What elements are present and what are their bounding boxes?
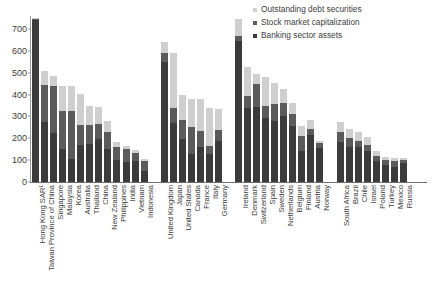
bar (179, 95, 186, 182)
bar (373, 151, 380, 182)
bar-segment-bank (188, 154, 195, 182)
bar-segment-bank (364, 151, 371, 182)
bar-segment-debt (68, 86, 75, 111)
bar-segment-stock (77, 125, 84, 145)
bar-segment-bank (179, 139, 186, 182)
bar-segment-bank (141, 171, 148, 182)
bar-segment-bank (132, 161, 139, 182)
x-axis-label: India (129, 185, 137, 201)
bar (316, 141, 323, 182)
bar-segment-bank (68, 159, 75, 182)
x-axis-label: United Kingdom (167, 185, 175, 239)
bar (206, 108, 213, 182)
bar-segment-debt (41, 71, 48, 85)
bar (123, 146, 130, 182)
bar (346, 129, 353, 183)
x-axis-line (30, 182, 427, 183)
x-axis-label: Philippines (120, 185, 128, 222)
bar (32, 18, 39, 182)
bar-segment-bank (161, 62, 168, 182)
bar-segment-stock (244, 96, 251, 108)
bar-segment-debt (161, 42, 168, 53)
bar-segment-bank (77, 145, 84, 182)
bar (337, 122, 344, 182)
y-tick-mark (28, 160, 31, 161)
bar-segment-debt (104, 121, 111, 132)
bar-segment-debt (298, 126, 305, 136)
bar-segment-stock (280, 103, 287, 116)
x-axis-label: Finland (305, 185, 313, 210)
x-axis-label: Australia (84, 185, 92, 215)
bar-segment-stock (289, 114, 296, 126)
bar-segment-stock (68, 111, 75, 159)
bar-segment-stock (41, 85, 48, 122)
y-tick-mark (28, 116, 31, 117)
x-axis-label: New Zealand (111, 185, 119, 230)
bar-segment-debt (337, 122, 344, 132)
x-axis-label: Belgium (296, 185, 304, 212)
bar (50, 76, 57, 182)
x-axis-label: Korea (75, 185, 83, 205)
x-axis-label: Japan (176, 185, 184, 206)
bar-segment-stock (188, 127, 195, 153)
bar-segment-stock (132, 153, 139, 162)
bar-segment-bank (298, 151, 305, 182)
x-axis-label: Ireland (242, 185, 250, 208)
bar-segment-stock (337, 132, 344, 142)
x-axis-label: Singapore (57, 185, 65, 220)
bar-segment-stock (298, 136, 305, 151)
bar (307, 120, 314, 182)
bar-segment-bank (373, 161, 380, 182)
bar (400, 158, 407, 182)
bar (113, 142, 120, 182)
bar (104, 121, 111, 182)
bar-segment-bank (59, 149, 66, 182)
bar-segment-stock (262, 106, 269, 118)
bar (161, 42, 168, 182)
bar-segment-stock (86, 125, 93, 144)
bar (289, 103, 296, 182)
bar-segment-stock (346, 138, 353, 147)
bar-segment-bank (197, 147, 204, 182)
bar (77, 94, 84, 182)
bar-segment-debt (271, 83, 278, 105)
bar (59, 86, 66, 182)
bar-segment-debt (95, 107, 102, 124)
x-axis-label: Taiwan Province of China (48, 185, 56, 271)
bar-segment-debt (206, 108, 213, 146)
bar-segment-debt (235, 19, 242, 35)
bar-segment-stock (95, 124, 102, 139)
x-axis-label: Austria (314, 185, 322, 209)
bar-segment-bank (289, 126, 296, 182)
bar-segment-stock (206, 146, 213, 154)
bar-segment-bank (41, 122, 48, 182)
x-axis-label: Brazil (352, 185, 360, 204)
bar-segment-stock (104, 132, 111, 149)
bar-segment-stock (253, 84, 260, 107)
bar-segment-debt (215, 109, 222, 130)
bar-segment-debt (244, 67, 251, 95)
bar-segment-debt (50, 76, 57, 86)
x-axis-label: Germany (221, 185, 229, 216)
y-tick-mark (28, 138, 31, 139)
bar-segment-debt (280, 89, 287, 103)
bar (364, 137, 371, 182)
bar-segment-debt (307, 120, 314, 129)
bar-segment-stock (197, 131, 204, 147)
bar-segment-bank (50, 133, 57, 182)
bar (68, 86, 75, 182)
x-axis-label: Vietnam (138, 185, 146, 213)
plot-area: 0100200300400500600700 (31, 16, 426, 182)
x-axis-label: Switzerland (260, 185, 268, 224)
bar (41, 71, 48, 182)
bar-segment-debt (289, 103, 296, 114)
x-axis-label: South Africa (343, 185, 351, 226)
bar (391, 158, 398, 182)
bar-segment-bank (170, 123, 177, 182)
bar (215, 109, 222, 182)
bar (235, 19, 242, 182)
x-axis-label: Indonesia (147, 185, 155, 218)
bar (95, 107, 102, 182)
x-axis-label: Malaysia (66, 185, 74, 215)
y-tick-mark (28, 182, 31, 183)
